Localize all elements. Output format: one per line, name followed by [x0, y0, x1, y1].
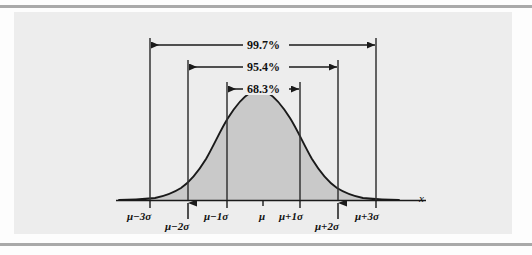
x-axis-label: x: [419, 193, 424, 204]
tick-label-minus-3-sigma: μ−3σ: [127, 211, 151, 222]
interval-label-68-3: 68.3%: [243, 83, 284, 95]
tick-label-minus-2-sigma: μ−2σ: [165, 221, 189, 232]
tick-label-plus-2-sigma: μ+2σ: [315, 221, 339, 232]
interval-label-95-4: 95.4%: [243, 61, 284, 73]
figure-panel: 99.7% 95.4% 68.3% μ−3σ μ−1σ μ μ+1σ μ+3σ …: [14, 12, 512, 234]
tick-label-plus-1-sigma: μ+1σ: [279, 211, 303, 222]
tick-label-minus-1-sigma: μ−1σ: [204, 211, 228, 222]
tick-label-plus-3-sigma: μ+3σ: [355, 211, 379, 222]
bottom-rule: [0, 243, 532, 246]
top-rule: [0, 5, 532, 8]
interval-label-99-7: 99.7%: [243, 39, 284, 51]
normal-distribution-figure: 99.7% 95.4% 68.3% μ−3σ μ−1σ μ μ+1σ μ+3σ …: [0, 0, 532, 255]
tick-label-mu: μ: [259, 211, 265, 222]
normal-curve-area: [119, 91, 399, 200]
